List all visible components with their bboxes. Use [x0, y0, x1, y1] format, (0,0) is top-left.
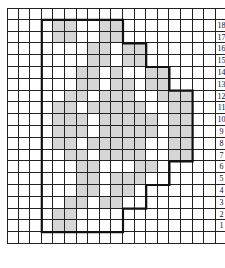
grid-cell	[193, 91, 205, 103]
grid-cell	[146, 102, 158, 114]
grid-cell	[146, 220, 158, 232]
grid-cell	[77, 79, 89, 91]
grid-cell	[7, 150, 19, 162]
row-label: 12	[216, 91, 225, 103]
grid-cell	[204, 67, 216, 79]
row-label: 9	[216, 126, 225, 138]
grid-cell	[65, 8, 77, 20]
grid-cell	[19, 209, 31, 221]
grid-cell	[88, 209, 100, 221]
grid-cell	[77, 114, 89, 126]
grid-cell	[7, 161, 19, 173]
grid-cell	[135, 161, 147, 173]
grid-cell	[111, 150, 123, 162]
grid-cell	[169, 209, 181, 221]
grid-cell	[42, 173, 54, 185]
grid-cell	[123, 185, 135, 197]
grid-cell	[158, 20, 170, 32]
grid-cell	[169, 91, 181, 103]
grid-cell	[7, 20, 19, 32]
grid-cell	[19, 43, 31, 55]
grid-cell	[193, 173, 205, 185]
grid-cell	[42, 150, 54, 162]
grid-cell	[169, 55, 181, 67]
grid-cell	[123, 32, 135, 44]
grid-cell	[158, 32, 170, 44]
grid-cell	[193, 126, 205, 138]
grid-cell	[30, 67, 42, 79]
grid-cell	[169, 173, 181, 185]
grid-cell	[146, 161, 158, 173]
grid-cell	[146, 8, 158, 20]
grid-cell	[42, 138, 54, 150]
grid-cell	[88, 91, 100, 103]
grid-cell	[123, 232, 135, 244]
grid-cell	[88, 102, 100, 114]
grid-cell	[30, 197, 42, 209]
row-label: 11	[216, 102, 225, 114]
grid-cell	[42, 161, 54, 173]
grid-cell	[158, 232, 170, 244]
grid-cell	[100, 185, 112, 197]
grid-cell	[53, 67, 65, 79]
grid-cell	[111, 32, 123, 44]
grid-cell	[204, 91, 216, 103]
grid-cell	[123, 79, 135, 91]
grid-cell	[111, 161, 123, 173]
grid-cell	[146, 138, 158, 150]
grid-cell	[135, 232, 147, 244]
grid-cell	[7, 232, 19, 244]
grid-cell	[216, 8, 225, 20]
grid-cell	[181, 220, 193, 232]
grid-cell	[146, 150, 158, 162]
grid-cell	[135, 185, 147, 197]
grid-cell	[169, 43, 181, 55]
grid-cell	[77, 209, 89, 221]
grid-cell	[169, 126, 181, 138]
grid-cell	[123, 150, 135, 162]
grid-cell	[193, 79, 205, 91]
grid-cell	[42, 185, 54, 197]
grid-cell	[7, 32, 19, 44]
grid-cell	[135, 43, 147, 55]
grid-cell	[204, 173, 216, 185]
grid-cell	[193, 185, 205, 197]
grid-cell	[111, 209, 123, 221]
grid-cell	[7, 197, 19, 209]
grid-cell	[146, 67, 158, 79]
row-label: 10	[216, 114, 225, 126]
grid-cell	[88, 114, 100, 126]
grid-cell	[193, 55, 205, 67]
grid-cell	[19, 8, 31, 20]
grid-cell	[204, 197, 216, 209]
grid-cell	[53, 138, 65, 150]
grid-cell	[65, 126, 77, 138]
grid-cell	[158, 185, 170, 197]
grid-cell	[135, 32, 147, 44]
grid-cell	[53, 220, 65, 232]
grid-cell	[181, 161, 193, 173]
grid-cell	[146, 114, 158, 126]
grid-cell	[30, 161, 42, 173]
grid-cell	[77, 55, 89, 67]
grid-cell	[158, 43, 170, 55]
grid-cell	[19, 150, 31, 162]
grid-cell	[42, 32, 54, 44]
grid-cell	[19, 55, 31, 67]
grid-cell	[88, 197, 100, 209]
grid-cell	[30, 102, 42, 114]
grid-cell	[181, 20, 193, 32]
grid-cell	[19, 79, 31, 91]
grid-cell	[100, 220, 112, 232]
row-label: 5	[216, 173, 225, 185]
grid-cell	[65, 55, 77, 67]
grid-cell	[111, 197, 123, 209]
grid-cell	[111, 114, 123, 126]
grid-cell	[158, 55, 170, 67]
grid-cell	[30, 138, 42, 150]
grid-cell	[135, 114, 147, 126]
grid-cell	[100, 79, 112, 91]
grid-cell	[19, 161, 31, 173]
grid-cell	[100, 161, 112, 173]
grid-cell	[146, 43, 158, 55]
